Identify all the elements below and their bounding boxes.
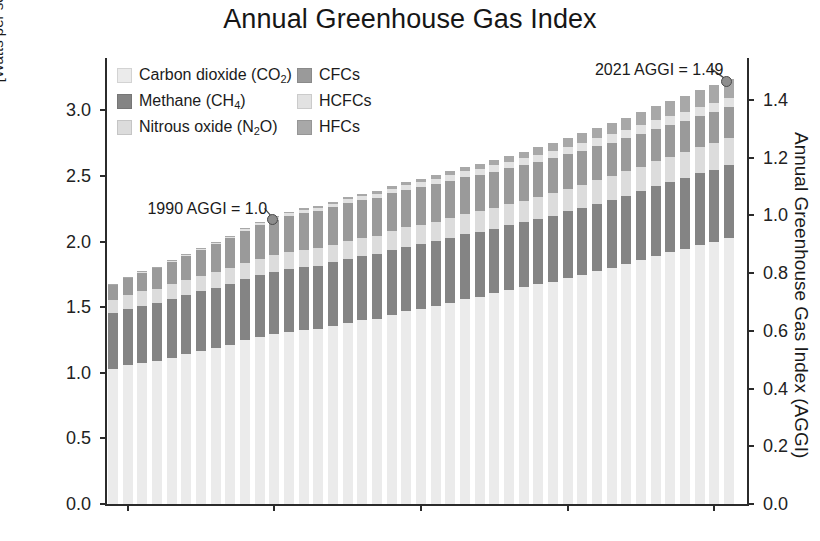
bar-segment-nitrous-oxide-n2o	[724, 138, 734, 165]
bar-segment-carbon-dioxide-co2	[577, 275, 587, 504]
bar-segment-hcfcs	[416, 182, 426, 187]
bar-segment-carbon-dioxide-co2	[651, 256, 661, 504]
legend-label-hcfcs: HCFCs	[319, 92, 371, 110]
bar-segment-nitrous-oxide-n2o	[211, 272, 221, 287]
bar-segment-methane-ch4	[211, 288, 221, 348]
bar-segment-hcfcs	[548, 151, 558, 158]
bar-segment-cfcs	[592, 146, 602, 180]
bar-segment-hcfcs	[152, 267, 162, 268]
legend-item-hfcs: HFCs	[297, 114, 371, 140]
bar-segment-nitrous-oxide-n2o	[343, 241, 353, 259]
bar-segment-carbon-dioxide-co2	[372, 319, 382, 504]
annotation-1990-aggi: 1990 AGGI = 1.0	[147, 200, 267, 218]
bar-segment-cfcs	[343, 203, 353, 241]
bar-segment-methane-ch4	[680, 178, 690, 248]
bar-segment-methane-ch4	[269, 272, 279, 335]
y-tick-label-left: 1.0	[66, 362, 91, 383]
bar-segment-methane-ch4	[152, 303, 162, 361]
bar-segment-hfcs	[343, 197, 353, 199]
bar	[665, 101, 675, 504]
bar	[255, 222, 265, 504]
bar-segment-hfcs	[548, 143, 558, 151]
bar	[357, 194, 367, 504]
bar-segment-cfcs	[416, 187, 426, 224]
bar-segment-hfcs	[299, 208, 309, 209]
bar	[240, 228, 250, 504]
bar-segment-nitrous-oxide-n2o	[313, 248, 323, 265]
bar-segment-cfcs	[401, 190, 411, 227]
x-tick	[127, 504, 129, 511]
bar-segment-nitrous-oxide-n2o	[563, 189, 573, 212]
bar-segment-nitrous-oxide-n2o	[255, 259, 265, 275]
bar-segment-carbon-dioxide-co2	[431, 306, 441, 504]
bar-segment-hfcs	[357, 194, 367, 196]
bar	[196, 248, 206, 504]
bar-segment-nitrous-oxide-n2o	[240, 263, 250, 279]
bar-segment-nitrous-oxide-n2o	[167, 284, 177, 299]
bar-segment-methane-ch4	[299, 267, 309, 331]
y-tick-left	[100, 241, 107, 243]
bar-segment-hcfcs	[137, 272, 147, 273]
legend-item-hcfcs: HCFCs	[297, 88, 371, 114]
bar	[621, 118, 631, 504]
y-tick-label-right: 1.0	[763, 205, 788, 226]
y-tick-label-left: 2.5	[66, 166, 91, 187]
bar-segment-carbon-dioxide-co2	[152, 361, 162, 504]
bar	[680, 96, 690, 504]
legend-item-n2o: Nitrous oxide (N2O)	[117, 114, 292, 140]
bar-segment-carbon-dioxide-co2	[255, 337, 265, 504]
bar-segment-cfcs	[519, 165, 529, 201]
bar-segment-nitrous-oxide-n2o	[445, 218, 455, 238]
bar-segment-hcfcs	[196, 249, 206, 250]
bar-segment-hcfcs	[489, 165, 499, 171]
legend-label-ch4: Methane (CH4)	[139, 92, 246, 110]
bar-segment-methane-ch4	[577, 208, 587, 275]
y-tick-left	[100, 109, 107, 111]
bar-segment-methane-ch4	[548, 216, 558, 282]
bar-segment-hfcs	[460, 167, 470, 171]
bar-segment-methane-ch4	[724, 165, 734, 238]
y-tick-right	[747, 330, 754, 332]
bar-segment-cfcs	[255, 225, 265, 259]
bar-segment-cfcs	[607, 143, 617, 176]
bar	[372, 191, 382, 504]
bar-segment-carbon-dioxide-co2	[592, 271, 602, 504]
chart-figure: Annual Greenhouse Gas Index 0.00.51.01.5…	[0, 0, 820, 541]
bar-segment-hcfcs	[255, 223, 265, 225]
bar-segment-carbon-dioxide-co2	[519, 287, 529, 504]
bar-segment-hfcs	[519, 152, 529, 159]
legend-item-cfcs: CFCs	[297, 62, 371, 88]
bar-segment-hfcs	[709, 85, 719, 103]
bar-segment-methane-ch4	[695, 173, 705, 244]
bar	[651, 106, 661, 504]
bar	[548, 143, 558, 504]
bar	[475, 164, 485, 504]
bar-segment-carbon-dioxide-co2	[240, 340, 250, 504]
bar-segment-methane-ch4	[489, 229, 499, 294]
bar-segment-cfcs	[108, 284, 118, 299]
bar-segment-carbon-dioxide-co2	[123, 365, 133, 504]
bar-segment-methane-ch4	[328, 262, 338, 326]
y-tick-right	[747, 445, 754, 447]
bar-segment-nitrous-oxide-n2o	[299, 250, 309, 267]
bar-segment-hcfcs	[607, 134, 617, 143]
bar-segment-hcfcs	[211, 243, 221, 245]
bar	[313, 206, 323, 504]
bar-segment-hfcs	[431, 175, 441, 179]
bar-segment-methane-ch4	[607, 200, 617, 268]
bar-segment-nitrous-oxide-n2o	[416, 225, 426, 245]
bar	[636, 112, 646, 504]
bar-segment-hfcs	[387, 186, 397, 189]
bar-segment-carbon-dioxide-co2	[401, 311, 411, 504]
bar-segment-carbon-dioxide-co2	[548, 282, 558, 504]
bar	[181, 254, 191, 504]
bar-segment-carbon-dioxide-co2	[621, 264, 631, 504]
y-tick-right	[747, 503, 754, 505]
bar-segment-hcfcs	[621, 130, 631, 139]
bar	[592, 128, 602, 504]
bar-segment-methane-ch4	[533, 219, 543, 284]
bar-segment-hcfcs	[108, 284, 118, 285]
legend-swatch-co2	[117, 68, 132, 83]
bar	[577, 133, 587, 504]
bar-segment-methane-ch4	[387, 250, 397, 315]
